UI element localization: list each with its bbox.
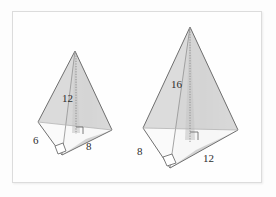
small-pyramid-base-right-label: 8 xyxy=(86,140,92,152)
large-pyramid-base-right-label: 12 xyxy=(203,152,214,164)
figure-canvas: 12 6 8 16 8 12 xyxy=(0,0,276,197)
small-pyramid-height-label: 12 xyxy=(62,92,73,104)
large-pyramid-group xyxy=(143,27,238,168)
small-pyramid-base-left-label: 6 xyxy=(33,134,39,146)
large-pyramid-height-label: 16 xyxy=(171,78,182,90)
small-pyramid-group xyxy=(38,51,112,155)
large-pyramid-base-left-label: 8 xyxy=(137,145,143,157)
pyramids-illustration xyxy=(0,0,276,197)
